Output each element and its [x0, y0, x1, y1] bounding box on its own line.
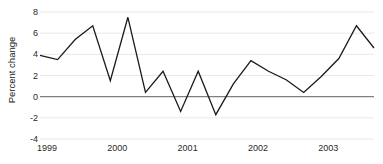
- percent-change-line-chart: Percent change 86420-2-4 199920002001200…: [0, 0, 383, 164]
- gridlines: [40, 12, 374, 139]
- series-polyline: [40, 17, 374, 114]
- data-line-series-percent-change: [40, 17, 374, 114]
- plot-area: [0, 0, 383, 164]
